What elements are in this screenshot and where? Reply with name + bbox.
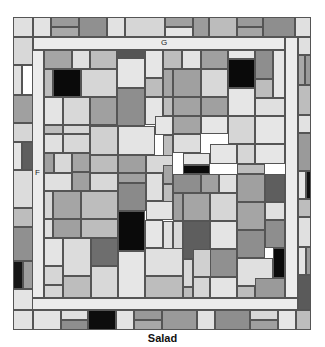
caption: Salad: [0, 332, 325, 344]
store-layout-diagram: [0, 0, 325, 347]
label-f: F: [35, 169, 40, 177]
label-g: G: [161, 39, 167, 47]
outer-frame: [13, 17, 311, 330]
